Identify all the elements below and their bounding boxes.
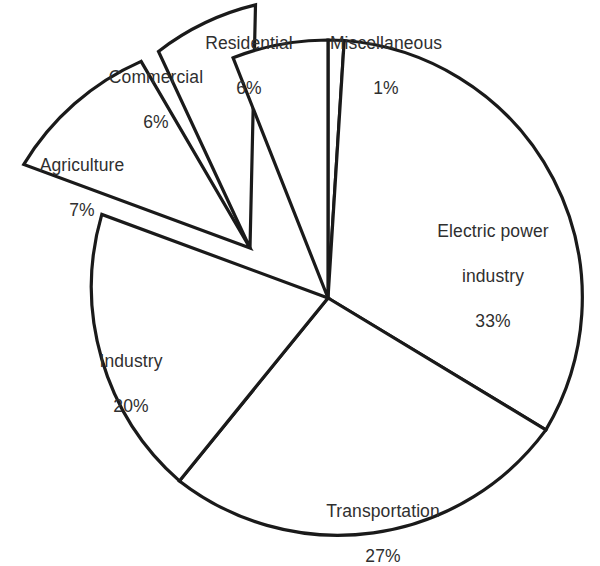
pie-chart: Miscellaneous 1% Residential 6% Commerci…: [0, 0, 600, 559]
pie-chart-svg: [0, 0, 600, 559]
